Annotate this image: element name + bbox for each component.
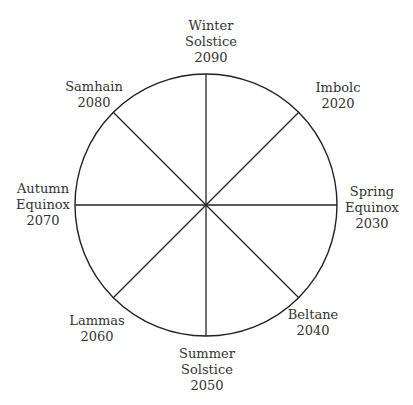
label-year: 2030 bbox=[345, 216, 399, 232]
label-line: Autumn bbox=[16, 181, 70, 197]
label-line: Winter bbox=[185, 18, 237, 34]
node-label-lammas: Lammas 2060 bbox=[69, 313, 124, 345]
node-label-summer-solstice: Summer Solstice 2050 bbox=[179, 346, 235, 394]
label-year: 2050 bbox=[179, 378, 235, 394]
node-label-imbolc: Imbolc 2020 bbox=[315, 80, 360, 112]
label-line: Solstice bbox=[185, 34, 237, 50]
label-line: Equinox bbox=[345, 200, 399, 216]
node-label-autumn-equinox: Autumn Equinox 2070 bbox=[16, 181, 70, 229]
label-line: Samhain bbox=[65, 79, 123, 95]
label-year: 2090 bbox=[185, 50, 237, 66]
label-year: 2060 bbox=[69, 329, 124, 345]
node-label-beltane: Beltane 2040 bbox=[288, 307, 338, 339]
label-year: 2020 bbox=[315, 96, 360, 112]
node-label-spring-equinox: Spring Equinox 2030 bbox=[345, 184, 399, 232]
label-year: 2070 bbox=[16, 213, 70, 229]
label-line: Spring bbox=[345, 184, 399, 200]
wheel-of-year-diagram: Winter Solstice 2090 Imbolc 2020 Spring … bbox=[0, 0, 413, 405]
label-line: Beltane bbox=[288, 307, 338, 323]
label-line: Solstice bbox=[179, 362, 235, 378]
label-line: Summer bbox=[179, 346, 235, 362]
node-label-samhain: Samhain 2080 bbox=[65, 79, 123, 111]
label-line: Imbolc bbox=[315, 80, 360, 96]
label-line: Equinox bbox=[16, 197, 70, 213]
label-year: 2080 bbox=[65, 95, 123, 111]
label-line: Lammas bbox=[69, 313, 124, 329]
node-label-winter-solstice: Winter Solstice 2090 bbox=[185, 18, 237, 66]
label-year: 2040 bbox=[288, 323, 338, 339]
